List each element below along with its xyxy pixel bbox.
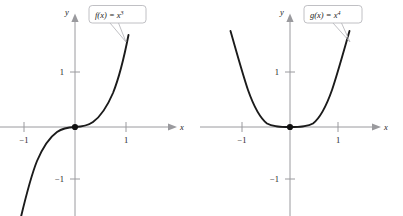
- quartic-y-tick-label-pos1: 1: [275, 67, 279, 77]
- figure-cubic: x y −1 1 1 −1 f(x) = x3: [0, 0, 200, 216]
- cubic-x-axis-arrowhead: [168, 123, 177, 130]
- quartic-y-tick-label-neg1: −1: [270, 174, 279, 184]
- quartic-plot: x y −1 1 1 −1 g(x) = x4: [200, 0, 403, 216]
- page-bleed-through: [0, 202, 403, 216]
- cubic-y-axis-arrowhead: [71, 14, 78, 23]
- quartic-x-tick-label-neg1: −1: [237, 135, 246, 145]
- quartic-callout-exponent: 4: [337, 10, 340, 16]
- cubic-x-axis-label: x: [179, 122, 184, 132]
- cubic-x-tick-label-neg1: −1: [19, 135, 28, 145]
- quartic-x-axis-label: x: [383, 122, 388, 132]
- quartic-y-axis-label: y: [279, 7, 284, 17]
- cubic-plot: x y −1 1 1 −1 f(x) = x3: [0, 0, 200, 216]
- cubic-callout-exponent: 3: [120, 10, 124, 16]
- cubic-callout-base: f(x) = x: [95, 10, 121, 20]
- quartic-x-axis-arrowhead: [372, 123, 381, 130]
- figure-pair: x y −1 1 1 −1 f(x) = x3: [0, 0, 403, 216]
- quartic-callout-text: g(x) = x4: [310, 10, 340, 21]
- cubic-y-tick-label-pos1: 1: [60, 67, 64, 77]
- cubic-callout-text: f(x) = x3: [95, 10, 124, 21]
- quartic-y-axis-arrowhead: [286, 14, 293, 23]
- quartic-callout-leader: [333, 23, 350, 42]
- cubic-origin-point: [72, 124, 78, 130]
- quartic-x-tick-label-pos1: 1: [336, 135, 340, 145]
- figure-quartic: x y −1 1 1 −1 g(x) = x4: [200, 0, 403, 216]
- cubic-y-tick-label-neg1: −1: [55, 174, 64, 184]
- quartic-callout-base: g(x) = x: [310, 10, 338, 20]
- cubic-x-tick-label-pos1: 1: [124, 135, 128, 145]
- cubic-callout-leader: [110, 23, 126, 42]
- quartic-origin-point: [287, 124, 293, 130]
- cubic-y-axis-label: y: [64, 7, 69, 17]
